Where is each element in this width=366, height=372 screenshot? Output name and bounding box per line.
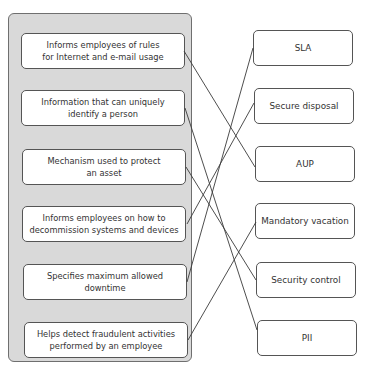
term-box-aup: AUP: [255, 146, 355, 182]
definition-box-secure-disposal: Informs employees on how todecommission …: [22, 206, 186, 242]
connector-security-control: [186, 167, 256, 280]
definition-text-line1: Helps detect fraudulent activities: [37, 329, 175, 339]
term-box-mandatory-vacation: Mandatory vacation: [255, 203, 355, 239]
definition-text-line1: Informs employees of rules: [47, 40, 160, 50]
definition-text-line2: an asset: [86, 168, 121, 178]
term-box-pii: PII: [257, 320, 357, 356]
term-label: Mandatory vacation: [261, 215, 349, 228]
term-label: SLA: [295, 42, 312, 55]
definition-text-line2: identify a person: [68, 109, 138, 119]
definition-box-security-control: Mechanism used to protectan asset: [22, 149, 186, 185]
term-label: Security control: [271, 274, 340, 287]
definition-box-pii: Information that can uniquelyidentify a …: [21, 90, 185, 126]
term-box-sla: SLA: [253, 30, 353, 66]
term-box-security-control: Security control: [256, 262, 356, 298]
definition-text-line1: Information that can uniquely: [41, 97, 164, 107]
definition-text-line1: Informs employees on how to: [43, 213, 166, 223]
connector-aup: [184, 51, 255, 167]
definition-box-aup: Informs employees of rulesfor Internet a…: [21, 33, 185, 69]
connector-pii: [185, 108, 257, 330]
connector-sla: [187, 48, 253, 282]
definition-text-line2: for Internet and e-mail usage: [42, 52, 163, 62]
term-label: PII: [302, 332, 313, 345]
connector-secure-disposal: [187, 103, 254, 224]
connector-mandatory-vacation: [188, 222, 256, 340]
definition-text-line2: downtime: [84, 283, 125, 293]
term-label: Secure disposal: [269, 100, 338, 113]
term-label: AUP: [296, 158, 314, 171]
definition-text-line2: performed by an employee: [50, 341, 163, 351]
term-box-secure-disposal: Secure disposal: [254, 88, 354, 124]
definition-text-line2: decommission systems and devices: [29, 225, 178, 235]
definition-text-line1: Mechanism used to protect: [47, 156, 160, 166]
definition-text-line1: Specifies maximum allowed: [47, 271, 163, 281]
definition-box-mandatory-vacation: Helps detect fraudulent activitiesperfor…: [24, 322, 188, 358]
definition-box-sla: Specifies maximum alloweddowntime: [23, 264, 187, 300]
